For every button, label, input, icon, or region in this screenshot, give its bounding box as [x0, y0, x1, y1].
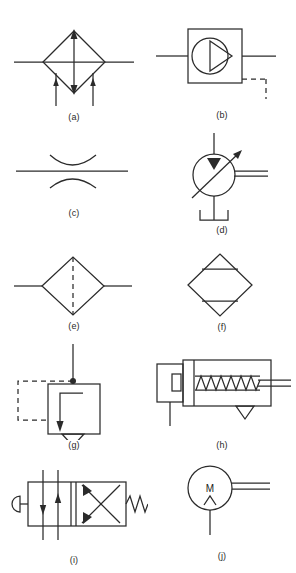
symbol-cell-c: (c) — [0, 130, 148, 245]
symbol-cell-i: (i) — [0, 455, 148, 573]
cylinder-end-cap — [157, 364, 183, 402]
symbol-cell-h: (h) — [148, 340, 296, 455]
restrictor-orifice-symbol — [0, 130, 148, 205]
caption-c: (c) — [0, 208, 148, 218]
caption-i: (i) — [0, 555, 148, 565]
port-triangle-filled — [207, 158, 221, 170]
inlet-arrowhead-left — [53, 78, 59, 86]
enclosure-square — [188, 29, 242, 83]
air-dryer-diamond-symbol — [0, 0, 148, 115]
caption-a: (a) — [0, 112, 148, 122]
symbol-cell-j: M (j) — [148, 455, 296, 573]
two-position-push-button-valve-symbol — [0, 455, 148, 555]
return-spring — [126, 496, 148, 512]
pilot-dashed-line — [18, 381, 73, 420]
figure-sheet: (a) (b) — [0, 0, 296, 573]
spring-return-cylinder-symbol — [148, 340, 296, 435]
restriction-arc-upper — [50, 155, 96, 165]
internal-arrowhead — [56, 421, 63, 432]
arrowhead-left-down — [40, 505, 46, 515]
diamond-outline — [188, 254, 252, 316]
caption-b: (b) — [148, 110, 296, 120]
valve-envelope — [48, 384, 100, 434]
arrowhead-middle-up — [55, 493, 61, 503]
symbol-cell-a: (a) — [0, 0, 148, 130]
filter-symbol — [0, 245, 148, 323]
caption-f: (f) — [148, 322, 296, 332]
piston-plate — [172, 374, 181, 391]
delivery-arrow-triangle — [210, 41, 232, 71]
pilot-operated-relief-valve-symbol — [0, 340, 148, 440]
pump-in-enclosure-symbol — [148, 0, 296, 110]
symbol-cell-d: (d) — [148, 130, 296, 245]
symbol-cell-b: (b) — [148, 0, 296, 130]
caption-g: (g) — [0, 440, 148, 450]
caption-d: (d) — [148, 225, 296, 235]
symbol-cell-e: (e) — [0, 245, 148, 340]
restriction-arc-lower — [50, 179, 96, 188]
caption-j: (j) — [148, 551, 296, 561]
drain-triangle — [236, 406, 254, 419]
motor-letter: M — [206, 483, 214, 494]
flow-direction-chevron — [204, 496, 216, 505]
push-button-head — [12, 496, 20, 512]
electric-motor-symbol: M — [148, 455, 296, 555]
cylinder-barrel — [183, 360, 271, 406]
symbol-cell-f: (f) — [148, 245, 296, 340]
return-spring-coil — [196, 376, 260, 390]
variable-pump-motor-symbol — [148, 130, 296, 230]
caption-e: (e) — [0, 321, 148, 331]
symbol-cell-g: (g) — [0, 340, 148, 455]
heat-exchanger-symbol — [148, 245, 296, 323]
caption-h: (h) — [148, 440, 296, 450]
inlet-arrowhead-right — [90, 78, 96, 86]
